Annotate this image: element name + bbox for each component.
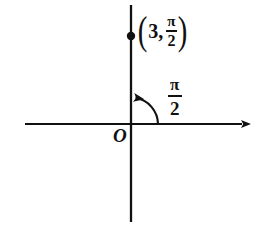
paren-close: ): [177, 15, 187, 48]
polar-diagram: O ( 3 , π 2 ) π 2: [0, 0, 272, 239]
angle-label: π 2: [168, 76, 182, 118]
origin-label: O: [113, 126, 127, 145]
coordinate-comma: ,: [158, 21, 166, 43]
angle-arc: [136, 98, 159, 124]
angle-numerator: π: [168, 76, 181, 95]
radius-value: 3: [148, 21, 158, 43]
point-coordinate-label: ( 3 , π 2 ): [136, 14, 189, 49]
angle-fraction: π 2: [168, 76, 182, 118]
data-point-marker: [127, 32, 135, 40]
angle-denominator: 2: [168, 97, 182, 118]
theta-denominator: 2: [166, 32, 176, 49]
theta-numerator: π: [166, 14, 176, 30]
theta-fraction: π 2: [166, 14, 176, 49]
paren-open: (: [138, 15, 148, 48]
